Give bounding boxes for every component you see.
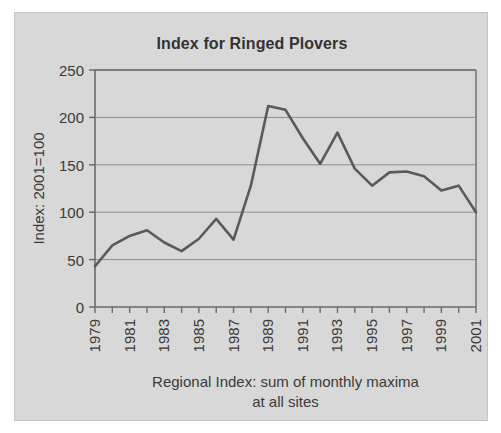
y-tick-label-50: 50 (67, 252, 84, 269)
line-chart-plot: 050100150200250 197919811983198519871989… (15, 13, 489, 422)
y-axis-tick-labels: 050100150200250 (59, 62, 84, 316)
x-tick-label-1999: 1999 (432, 319, 449, 352)
x-tick-label-1991: 1991 (294, 319, 311, 352)
x-tick-label-1987: 1987 (225, 319, 242, 352)
y-tick-label-100: 100 (59, 204, 84, 221)
data-series-line (95, 106, 476, 266)
y-tick-label-0: 0 (76, 299, 84, 316)
figure-root: Index for Ringed Plovers 050100150200250… (0, 0, 501, 433)
x-tick-label-1993: 1993 (328, 319, 345, 352)
gridlines-group (95, 70, 476, 260)
y-axis-title: Index: 2001=100 (30, 132, 47, 244)
x-tick-label-1981: 1981 (121, 319, 138, 352)
x-axis-ticks (95, 307, 476, 313)
x-tick-label-1979: 1979 (86, 319, 103, 352)
y-axis-ticks (89, 70, 95, 307)
chart-panel: Index for Ringed Plovers 050100150200250… (14, 12, 488, 421)
x-tick-label-1995: 1995 (363, 319, 380, 352)
x-tick-label-1983: 1983 (155, 319, 172, 352)
y-tick-label-250: 250 (59, 62, 84, 79)
x-axis-caption-line-1: Regional Index: sum of monthly maxima (152, 373, 419, 390)
x-axis-tick-labels: 1979198119831985198719891991199319951997… (86, 319, 484, 352)
x-tick-label-2001: 2001 (467, 319, 484, 352)
x-tick-label-1989: 1989 (259, 319, 276, 352)
x-tick-label-1997: 1997 (398, 319, 415, 352)
x-tick-label-1985: 1985 (190, 319, 207, 352)
x-axis-caption-line-2: at all sites (252, 393, 319, 410)
y-tick-label-150: 150 (59, 157, 84, 174)
y-tick-label-200: 200 (59, 109, 84, 126)
